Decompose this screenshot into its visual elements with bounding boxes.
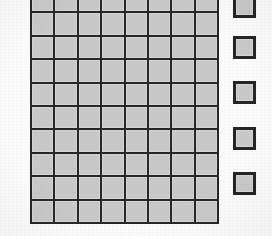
grid-cell [30, 105, 55, 130]
grid-cell [30, 199, 55, 224]
grid-cell [77, 152, 102, 177]
grid-cell [170, 58, 195, 83]
grid-cell [170, 175, 195, 200]
key-square-4 [233, 127, 256, 150]
grid-cell [53, 199, 78, 224]
grid-cell [30, 128, 55, 153]
grid-cell [53, 128, 78, 153]
grid-cell [100, 11, 125, 36]
grid-cell [147, 152, 172, 177]
grid-cell [147, 35, 172, 60]
grid-cell [100, 152, 125, 177]
grid-cell [170, 11, 195, 36]
grid-cell [194, 105, 219, 130]
grid-cell [30, 152, 55, 177]
key-square-3 [233, 81, 256, 104]
grid-cell [170, 35, 195, 60]
grid-cell [194, 11, 219, 36]
grid-cell [30, 82, 55, 107]
grid-cell [53, 152, 78, 177]
key-square-1 [233, 0, 256, 18]
grid-cell [124, 175, 149, 200]
key-square-5 [233, 172, 256, 195]
grid-cell [53, 35, 78, 60]
grid-cell [170, 199, 195, 224]
grid-cell [100, 35, 125, 60]
square-lattice [31, 0, 218, 223]
grid-cell [77, 128, 102, 153]
grid-cell [53, 58, 78, 83]
grid-cell [124, 82, 149, 107]
grid-cell [30, 58, 55, 83]
grid-cell [194, 152, 219, 177]
grid-cell [170, 128, 195, 153]
grid-cell [77, 82, 102, 107]
figure-canvas [0, 0, 272, 236]
grid-cell [147, 175, 172, 200]
grid-cell [77, 58, 102, 83]
grid-cell [77, 35, 102, 60]
grid-cell [100, 199, 125, 224]
grid-cell [124, 128, 149, 153]
grid-cell [147, 11, 172, 36]
grid-cell [53, 82, 78, 107]
grid-cell [170, 152, 195, 177]
grid-cell [170, 82, 195, 107]
grid-cell [147, 199, 172, 224]
grid-cell [124, 11, 149, 36]
grid-cell [77, 105, 102, 130]
grid-cell [124, 152, 149, 177]
grid-cell [124, 35, 149, 60]
grid-cell [170, 105, 195, 130]
grid-cell [147, 58, 172, 83]
grid-cell [124, 58, 149, 83]
grid-cell [100, 82, 125, 107]
grid-cell [124, 199, 149, 224]
grid-cell [100, 175, 125, 200]
grid-cell [194, 199, 219, 224]
grid-cell [147, 128, 172, 153]
grid-cell [194, 82, 219, 107]
grid-cell [100, 128, 125, 153]
grid-cell [30, 175, 55, 200]
grid-cell [124, 105, 149, 130]
grid-cell [147, 82, 172, 107]
grid-cell [100, 105, 125, 130]
key-square-2 [233, 36, 256, 59]
grid-cell [77, 11, 102, 36]
grid-cell [147, 105, 172, 130]
grid-cell [194, 35, 219, 60]
grid-cell [100, 58, 125, 83]
grid-cell [194, 128, 219, 153]
grid-cell [30, 11, 55, 36]
grid-cell [53, 105, 78, 130]
grid-cell [194, 175, 219, 200]
grid-cell [53, 175, 78, 200]
grid-cell [194, 58, 219, 83]
grid-cell [30, 35, 55, 60]
grid-cell [77, 199, 102, 224]
grid-cell [53, 11, 78, 36]
grid-cell [77, 175, 102, 200]
